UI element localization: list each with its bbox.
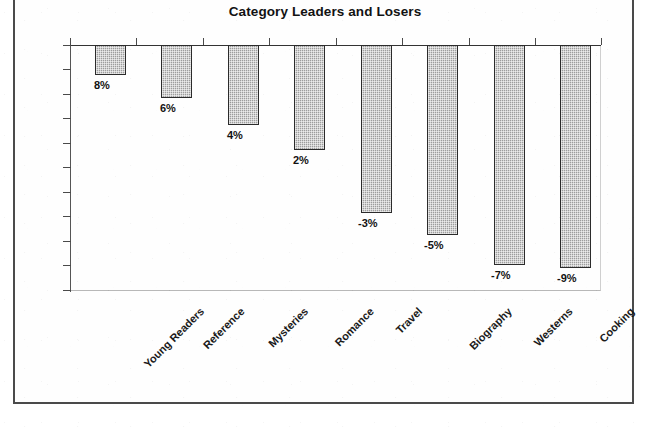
y-axis-tick [63, 216, 71, 217]
y-axis-tick [63, 290, 71, 291]
bar-value-label-reference: 6% [160, 102, 176, 114]
bar-young-readers[interactable] [95, 45, 126, 75]
y-axis-tick [63, 265, 71, 266]
x-axis-tick [535, 38, 536, 45]
bar-value-label-westerns: -7% [491, 269, 511, 281]
bar-westerns[interactable] [494, 45, 525, 265]
value-axis-line [70, 44, 71, 292]
x-axis-tick [469, 38, 470, 45]
bar-reference[interactable] [161, 45, 192, 98]
bar-travel[interactable] [361, 45, 392, 213]
bar-value-label-travel: -3% [358, 217, 378, 229]
bar-value-label-young-readers: 8% [94, 79, 110, 91]
y-axis-tick [63, 69, 71, 70]
bar-mysteries[interactable] [228, 45, 259, 125]
chart-title: Category Leaders and Losers [0, 4, 650, 19]
y-axis-tick [63, 94, 71, 95]
x-axis-tick [203, 38, 204, 45]
y-axis-tick [63, 143, 71, 144]
bar-romance[interactable] [294, 45, 325, 150]
bar-value-label-cooking: -9% [557, 272, 577, 284]
x-axis-tick [136, 38, 137, 45]
y-axis-tick [63, 241, 71, 242]
x-axis-tick [601, 38, 602, 45]
y-axis-tick [63, 192, 71, 193]
bar-cooking[interactable] [560, 45, 591, 268]
x-axis-tick [336, 38, 337, 45]
bar-value-label-romance: 2% [293, 154, 309, 166]
bar-value-label-mysteries: 4% [227, 129, 243, 141]
y-axis-tick [63, 167, 71, 168]
chart-canvas: Category Leaders and Losers 8% 6% 4% 2% … [0, 0, 650, 429]
x-axis-tick [269, 38, 270, 45]
bar-biography[interactable] [427, 45, 458, 235]
bar-value-label-biography: -5% [424, 239, 444, 251]
y-axis-tick [63, 45, 71, 46]
x-axis-tick [70, 38, 71, 45]
x-axis-tick [402, 38, 403, 45]
y-axis-tick [63, 118, 71, 119]
